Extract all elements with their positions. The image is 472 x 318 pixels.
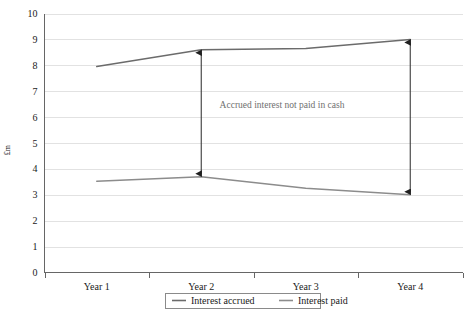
y-tick-label-2: 2 — [33, 215, 38, 226]
x-category-label-3: Year 3 — [293, 281, 319, 292]
x-category-label-4: Year 4 — [397, 281, 423, 292]
y-tick-label-0: 0 — [33, 267, 38, 278]
y-tick-label-3: 3 — [33, 189, 38, 200]
legend: Interest accruedInterest paid — [166, 294, 348, 309]
x-category-label-2: Year 2 — [188, 281, 214, 292]
y-tick-labels-group: 012345678910 — [28, 8, 38, 278]
x-category-label-1: Year 1 — [84, 281, 110, 292]
y-tick-label-9: 9 — [33, 34, 38, 45]
line-chart: 012345678910 Year 1Year 2Year 3Year 4 £m… — [0, 0, 472, 318]
y-tick-label-7: 7 — [33, 86, 38, 97]
annotation-caption: Accrued interest not paid in cash — [220, 100, 345, 110]
chart-canvas: 012345678910 Year 1Year 2Year 3Year 4 £m… — [0, 0, 472, 318]
y-tick-label-1: 1 — [33, 241, 38, 252]
legend-label-1[interactable]: Interest accrued — [191, 295, 255, 306]
series-line-interest-paid — [97, 177, 411, 195]
y-tick-label-8: 8 — [33, 60, 38, 71]
y-tick-label-6: 6 — [33, 112, 38, 123]
y-tick-label-5: 5 — [33, 138, 38, 149]
y-tick-label-10: 10 — [28, 8, 38, 19]
y-axis-title: £m — [3, 144, 12, 155]
series-line-interest-accrued — [97, 39, 411, 66]
x-category-labels-group: Year 1Year 2Year 3Year 4 — [84, 281, 423, 292]
legend-label-2[interactable]: Interest paid — [298, 295, 348, 306]
x-tickmarks-group — [46, 273, 464, 278]
y-tick-label-4: 4 — [33, 163, 38, 174]
